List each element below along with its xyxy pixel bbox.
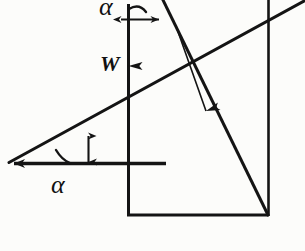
- figure-canvas: α α W: [0, 0, 305, 251]
- top-angle-arc: [129, 7, 146, 12]
- alpha-label-bottom: α: [51, 172, 65, 198]
- alpha-label-top: α: [99, 0, 113, 20]
- diagram-svg: [0, 0, 305, 251]
- weight-label: W: [100, 53, 120, 75]
- incline-line: [9, 1, 305, 163]
- lower-angle-arc: [56, 150, 70, 163]
